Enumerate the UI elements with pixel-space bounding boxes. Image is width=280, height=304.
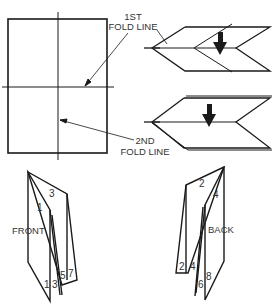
front-page-3-bottom: 3: [52, 279, 58, 290]
second-fold-label-line2: FOLD LINE: [120, 146, 169, 157]
back-page-2-bottom: 2: [179, 261, 185, 272]
back-page-2-top: 2: [199, 178, 205, 189]
front-page-1-top: 1: [37, 202, 43, 213]
folding-diagram: 1ST FOLD LINE 2ND FOLD LINE 1 3 FRONT 1 …: [0, 0, 280, 304]
flat-sheet: [2, 12, 134, 160]
fold-down-arrow-icon: [202, 104, 216, 127]
back-page-4-top: 4: [213, 189, 219, 200]
back-page-6-bottom: 6: [198, 279, 204, 290]
front-page-7-bottom: 7: [68, 268, 74, 279]
front-label: FRONT: [12, 225, 45, 236]
front-page-5-bottom: 5: [60, 270, 66, 281]
fold-down-arrow-icon: [213, 32, 227, 55]
second-fold-label-line1: 2ND: [135, 135, 154, 146]
front-page-1-bottom: 1: [44, 279, 50, 290]
back-label: BACK: [208, 224, 235, 235]
back-page-4-bottom: 4: [190, 261, 196, 272]
back-page-8-bottom: 8: [206, 271, 212, 282]
front-page-3-top: 3: [49, 188, 55, 199]
first-fold-figure: [144, 24, 270, 72]
first-fold-label-line2: FOLD LINE: [108, 21, 157, 32]
